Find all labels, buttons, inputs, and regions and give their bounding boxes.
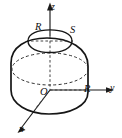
axis-label-z: z: [51, 2, 55, 12]
hemisphere-outline: [11, 38, 88, 114]
radius-label-z-axis: R: [35, 22, 41, 33]
axis-label-y: y: [110, 83, 114, 93]
surface-label-s: S: [70, 25, 75, 36]
origin-label: O: [40, 87, 48, 98]
axis-label-x: x: [19, 124, 23, 134]
diagram-canvas: [0, 0, 122, 138]
radius-label-y-axis: R: [84, 84, 90, 95]
hemisphere-diagram-figure: z y x O R R S: [0, 0, 122, 138]
